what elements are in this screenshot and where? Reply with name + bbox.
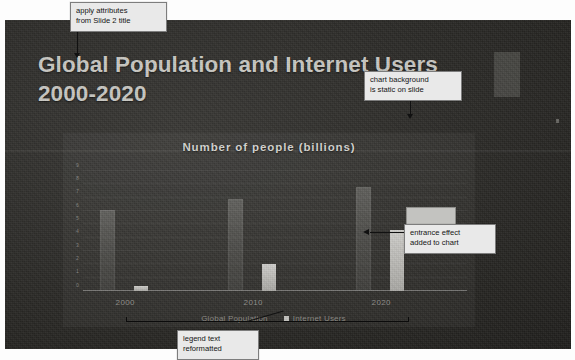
callout-title-note-arrowhead [74, 53, 80, 58]
callout-entrance-note-leader [370, 232, 406, 233]
slide-decorative-dot [556, 119, 559, 123]
chart-y-tick-label: 4 [76, 230, 79, 235]
chart-y-tick-label: 8 [76, 177, 79, 182]
chart-y-tick-label: 7 [76, 190, 79, 195]
callout-entrance-note-arrowhead [363, 229, 369, 235]
chart-bar-internet-users[interactable] [390, 230, 404, 291]
chart-x-tick-label: 2020 [372, 298, 391, 307]
presentation-slide[interactable]: Global Population and Internet Users 200… [5, 20, 571, 349]
callout-legend-bracket-right-tick [408, 317, 409, 322]
callout-title-note-leader [77, 30, 78, 55]
chart-y-tick-label: 0 [76, 283, 79, 288]
chart-bar-global-population[interactable] [356, 187, 371, 291]
chart-bar-group[interactable]: 2000 [83, 171, 211, 291]
callout-title-note[interactable]: apply attributes from Slide 2 title [70, 2, 167, 32]
chart-bar-global-population[interactable] [100, 210, 115, 291]
chart-y-tick-label: 3 [76, 243, 79, 248]
callout-legend-bracket-left-tick [126, 317, 127, 322]
chart-x-tick-label: 2000 [116, 298, 135, 307]
slide-decorative-rectangle [494, 52, 520, 97]
chart-bar-global-population[interactable] [228, 199, 243, 291]
chart-y-tick-label: 6 [76, 203, 79, 208]
chart-bar-internet-users[interactable] [134, 286, 148, 291]
chart-bar-group[interactable]: 2010 [211, 171, 339, 291]
chart-bar-internet-users[interactable] [262, 264, 276, 291]
chart-y-tick-label: 2 [76, 257, 79, 262]
chart-y-tick-label: 9 [76, 163, 79, 168]
callout-entrance-note[interactable]: entrance effect added to chart [404, 224, 496, 254]
chart-title: Number of people (billions) [63, 141, 475, 153]
chart-y-tick-label: 1 [76, 270, 79, 275]
callout-legend-note[interactable]: legend text reformatted [177, 330, 259, 360]
chart-x-tick-label: 2010 [244, 298, 263, 307]
callout-background-note[interactable]: chart background is static on slide [364, 71, 462, 101]
chart-y-tick-label: 5 [76, 217, 79, 222]
callout-background-note-arrowhead [407, 114, 413, 119]
callout-legend-bracket [126, 321, 409, 322]
